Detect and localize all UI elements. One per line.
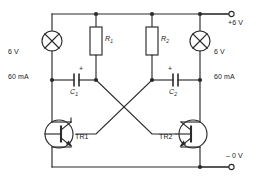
- node-r1-top: [94, 12, 98, 16]
- lamp-left-current: 60 mA: [8, 73, 29, 81]
- resistor-r1-subscript: 1: [110, 38, 113, 44]
- tr2-collector-lead: [181, 122, 191, 130]
- lamp-left-label: 6 V 60 mA: [8, 31, 29, 98]
- capacitor-c1-subscript: 1: [75, 91, 78, 97]
- capacitor-c2-label: C2: [169, 88, 177, 99]
- node-r2-top: [150, 12, 154, 16]
- lamp-right-voltage: 6 V: [214, 48, 235, 56]
- lamp-right-label: 6 V 60 mA: [214, 31, 235, 98]
- lamp-left-voltage: 6 V: [8, 48, 29, 56]
- resistor-r1-label: R1: [105, 35, 113, 46]
- lamp-right-current: 60 mA: [214, 73, 235, 81]
- transistor-tr2-label: TR2: [159, 133, 173, 141]
- transistor-tr1-label: TR1: [75, 133, 89, 141]
- cross-couple-to-tr2-base: [96, 80, 176, 134]
- resistor-r1-body: [90, 27, 102, 55]
- positive-terminal-ring[interactable]: [229, 11, 234, 16]
- circuit-diagram: 6 V 60 mA 6 V 60 mA R1 R2 + C1 + C2 TR1 …: [0, 0, 256, 181]
- tr1-collector-lead: [61, 122, 71, 130]
- negative-terminal-ring[interactable]: [229, 164, 234, 169]
- resistor-r2-label: R2: [161, 35, 169, 46]
- resistor-r2-subscript: 2: [166, 38, 169, 44]
- capacitor-c2-polarity: +: [168, 65, 172, 73]
- positive-supply-label: +6 V: [228, 19, 243, 27]
- negative-supply-label: – 0 V: [226, 152, 243, 160]
- cross-couple-to-tr1-base: [76, 80, 152, 134]
- capacitor-c2-subscript: 2: [174, 91, 177, 97]
- capacitor-c1-polarity: +: [79, 65, 83, 73]
- capacitor-c1-label: C1: [70, 88, 78, 99]
- resistor-r2-body: [146, 27, 158, 55]
